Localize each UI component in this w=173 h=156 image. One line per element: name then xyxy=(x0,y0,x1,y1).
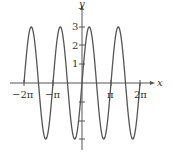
x-tick-label-pi: π xyxy=(107,89,114,100)
y-axis-label: y xyxy=(78,0,85,9)
x-tick-label-2pi: 2π xyxy=(134,89,147,100)
x-tick-label-neg-pi: −π xyxy=(45,89,60,100)
y-tick-label-3: 3 xyxy=(72,21,78,32)
sine-graph: y x 3 2 1 −2π −π π 2π xyxy=(0,0,173,156)
x-axis-label: x xyxy=(157,77,163,88)
x-axis-arrow-icon xyxy=(150,81,155,85)
x-tick-label-neg-2pi: −2π xyxy=(12,89,34,100)
y-tick-label-2: 2 xyxy=(72,40,78,51)
y-tick-label-1: 1 xyxy=(72,58,78,69)
